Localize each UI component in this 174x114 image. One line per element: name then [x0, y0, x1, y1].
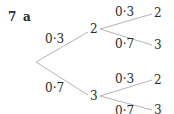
question-part: a	[23, 11, 31, 23]
prob-level1-first: 0·3	[45, 33, 64, 45]
prob-level2-2: 0·7	[115, 38, 134, 50]
leaf-4: 3	[154, 104, 162, 114]
node-level1-first: 2	[90, 23, 98, 35]
node-level1-second: 3	[90, 90, 98, 102]
prob-level2-4: 0·7	[115, 105, 134, 114]
leaf-1: 2	[154, 7, 162, 19]
prob-level2-1: 0·3	[115, 6, 134, 18]
prob-level1-second: 0·7	[45, 82, 64, 94]
leaf-2: 3	[154, 39, 162, 51]
leaf-3: 2	[154, 74, 162, 86]
prob-level2-3: 0·3	[115, 73, 134, 85]
question-number: 7	[8, 11, 16, 23]
